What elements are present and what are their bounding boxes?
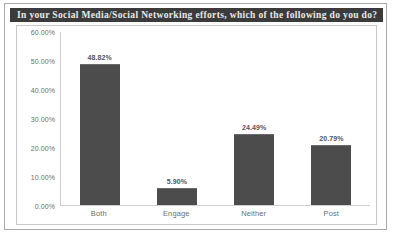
bar[interactable] [234, 134, 274, 205]
bar[interactable] [311, 145, 351, 205]
bar-value-label: 5.90% [167, 178, 187, 185]
plot-panel: 0.00%10.00%20.00%30.00%40.00%50.00%60.00… [16, 25, 377, 225]
x-axis-tick-label: Neither [215, 209, 293, 223]
bar-group: 24.49% [216, 32, 293, 205]
bar-group: 20.79% [293, 32, 370, 205]
y-axis-tick-label: 0.00% [35, 203, 55, 210]
y-axis-tick-label: 10.00% [31, 174, 55, 181]
y-axis-tick-label: 60.00% [31, 29, 55, 36]
bar-value-label: 24.49% [242, 124, 266, 131]
chart-title-bar: In your Social Media/Social Networking e… [10, 8, 383, 22]
chart-title: In your Social Media/Social Networking e… [10, 10, 377, 20]
bar-value-label: 48.82% [87, 54, 111, 61]
y-axis-tick-label: 20.00% [31, 145, 55, 152]
plot-area: 48.82%5.90%24.49%20.79% [60, 32, 370, 206]
x-axis-tick-label: Engage [138, 209, 216, 223]
bar-group: 48.82% [61, 32, 138, 205]
bar-group: 5.90% [138, 32, 215, 205]
y-axis-tick-label: 50.00% [31, 58, 55, 65]
bar-value-label: 20.79% [319, 135, 343, 142]
chart-frame: In your Social Media/Social Networking e… [4, 3, 387, 230]
bar-series: 48.82%5.90%24.49%20.79% [61, 32, 370, 205]
x-axis: BothEngageNeitherPost [60, 209, 370, 223]
x-axis-tick-label: Both [60, 209, 138, 223]
bar[interactable] [80, 64, 120, 205]
bar[interactable] [157, 188, 197, 205]
y-axis-tick-label: 40.00% [31, 87, 55, 94]
y-axis: 0.00%10.00%20.00%30.00%40.00%50.00%60.00… [17, 26, 59, 212]
y-axis-tick-label: 30.00% [31, 116, 55, 123]
x-axis-tick-label: Post [293, 209, 371, 223]
